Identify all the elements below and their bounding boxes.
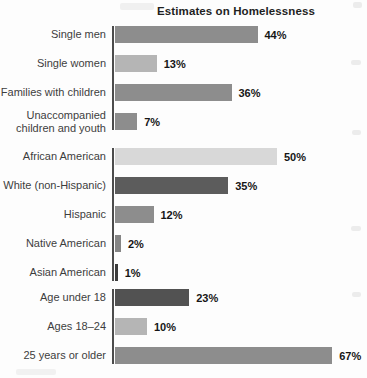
chart-row: Age under 1823%: [0, 289, 367, 306]
value-label: 10%: [154, 321, 176, 333]
bar: [115, 177, 229, 194]
chart-row: White (non-Hispanic)35%: [0, 177, 367, 194]
category-label: Hispanic: [0, 208, 113, 221]
bar: [115, 26, 258, 43]
category-label: Single women: [0, 57, 113, 70]
value-label: 7%: [144, 116, 160, 128]
bar-cell: 67%: [115, 347, 362, 364]
bar: [115, 235, 122, 252]
value-label: 35%: [235, 180, 257, 192]
category-label: Families with children: [0, 86, 113, 99]
scan-artifact: [353, 2, 362, 8]
chart-row: Hispanic12%: [0, 206, 367, 223]
axis-line: [112, 289, 114, 364]
bar-group-household-type: Single men44%Single women13%Families wit…: [0, 26, 367, 130]
category-label: Asian American: [0, 266, 113, 279]
scan-artifact: [351, 60, 361, 65]
value-label: 1%: [125, 267, 141, 279]
value-label: 2%: [128, 238, 144, 250]
scan-artifact: [16, 369, 56, 375]
bar: [115, 289, 190, 306]
chart-row: Native American2%: [0, 235, 367, 252]
bar: [115, 148, 278, 165]
axis-line: [112, 148, 114, 281]
bar-cell: 2%: [115, 235, 144, 252]
bar-cell: 44%: [115, 26, 287, 43]
chart-row: 25 years or older67%: [0, 347, 367, 364]
bar: [115, 206, 154, 223]
category-label: Ages 18–24: [0, 320, 113, 333]
chart-row: Families with children36%: [0, 84, 367, 101]
category-label: Age under 18: [0, 291, 113, 304]
chart-row: Unaccompanied children and youth7%: [0, 113, 367, 130]
bar-group-race-ethnicity: African American50%White (non-Hispanic)3…: [0, 148, 367, 281]
category-label: Single men: [0, 28, 113, 41]
category-label: 25 years or older: [0, 349, 113, 362]
chart-row: Single women13%: [0, 55, 367, 72]
scan-artifact: [120, 3, 154, 10]
value-label: 36%: [239, 87, 261, 99]
value-label: 13%: [164, 58, 186, 70]
chart-row: Single men44%: [0, 26, 367, 43]
bar-cell: 35%: [115, 177, 258, 194]
value-label: 67%: [339, 350, 361, 362]
bar-cell: 50%: [115, 148, 307, 165]
value-label: 44%: [265, 29, 287, 41]
scan-artifact: [351, 226, 361, 231]
bar-cell: 13%: [115, 55, 186, 72]
bar: [115, 55, 157, 72]
bar: [115, 347, 333, 364]
bar-cell: 12%: [115, 206, 183, 223]
value-label: 50%: [284, 151, 306, 163]
bar: [115, 84, 232, 101]
bar-cell: 1%: [115, 264, 141, 281]
category-label: African American: [0, 150, 113, 163]
scan-artifact: [352, 292, 361, 297]
bar: [115, 318, 148, 335]
bar-group-age-group: Age under 1823%Ages 18–2410%25 years or …: [0, 289, 367, 364]
chart-row: Asian American1%: [0, 264, 367, 281]
bar: [115, 113, 138, 130]
bar-cell: 36%: [115, 84, 261, 101]
homelessness-bar-chart: Estimates on Homelessness Single men44%S…: [0, 0, 367, 378]
chart-row: African American50%: [0, 148, 367, 165]
category-label: White (non-Hispanic): [0, 179, 113, 192]
category-label: Unaccompanied children and youth: [0, 109, 113, 134]
bar-cell: 10%: [115, 318, 177, 335]
value-label: 12%: [161, 209, 183, 221]
axis-line: [112, 26, 114, 130]
bar-cell: 23%: [115, 289, 219, 306]
chart-plot-area: Single men44%Single women13%Families wit…: [0, 26, 367, 364]
category-label: Native American: [0, 237, 113, 250]
chart-row: Ages 18–2410%: [0, 318, 367, 335]
bar-cell: 7%: [115, 113, 161, 130]
scan-artifact: [352, 130, 361, 135]
bar: [115, 264, 118, 281]
value-label: 23%: [196, 292, 218, 304]
